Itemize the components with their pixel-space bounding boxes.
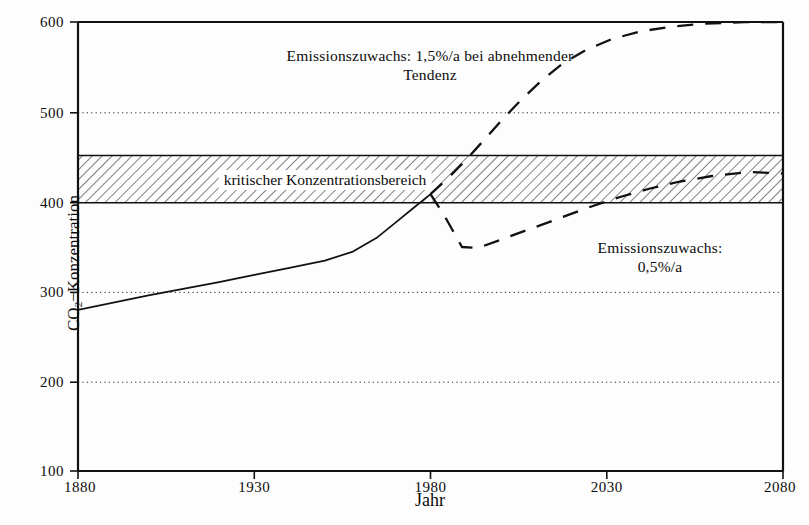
- y-tick-label-600: 600: [18, 14, 64, 31]
- critical-band-label: kritischer Konzentrationsbereich: [219, 170, 432, 190]
- x-tick-label-2030: 2030: [591, 479, 623, 496]
- y-tick-label-400: 400: [18, 194, 64, 211]
- x-tick-label-1880: 1880: [64, 479, 96, 496]
- y-axis-title-subscript: 2: [72, 301, 84, 307]
- x-tick-label-1930: 1930: [238, 479, 270, 496]
- y-tick-label-300: 300: [18, 284, 64, 301]
- y-tick-label-500: 500: [18, 104, 64, 121]
- co2-concentration-chart: 100 200 300 400 500 600 1880 1930 1980 2…: [0, 0, 809, 525]
- annotation-high-scenario: Emissionszuwachs: 1,5%/a bei abnehmender…: [287, 46, 574, 85]
- y-axis-title-suffix: −Konzentration: [64, 195, 83, 302]
- x-tick-label-2080: 2080: [764, 479, 796, 496]
- x-axis-title: Jahr: [415, 490, 445, 511]
- y-tick-label-200: 200: [18, 374, 64, 391]
- y-tick-label-100: 100: [18, 463, 64, 480]
- y-axis-title: CO2−Konzentration: [64, 195, 84, 331]
- annotation-low-scenario: Emissionszuwachs: 0,5%/a: [586, 238, 735, 277]
- x-tick-marks: [78, 471, 783, 479]
- y-axis-title-prefix: CO: [64, 307, 83, 331]
